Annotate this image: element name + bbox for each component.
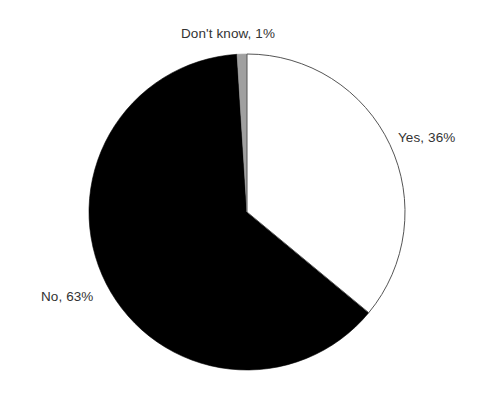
pie-label-yes: Yes, 36% <box>398 130 455 145</box>
pie-chart-svg <box>0 0 490 401</box>
pie-label-no: No, 63% <box>41 289 93 304</box>
pie-slices <box>89 54 405 370</box>
pie-chart-figure: Don't know, 1% Yes, 36% No, 63% <box>0 0 490 401</box>
pie-label-dont-know: Don't know, 1% <box>181 26 275 41</box>
